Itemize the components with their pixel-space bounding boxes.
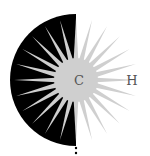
dot-mark xyxy=(75,152,77,154)
dot-marks xyxy=(75,147,77,154)
label-h: H xyxy=(126,73,137,88)
label-c: C xyxy=(74,73,84,88)
sunburst-diagram: C H xyxy=(0,0,150,156)
dot-mark xyxy=(75,147,77,149)
